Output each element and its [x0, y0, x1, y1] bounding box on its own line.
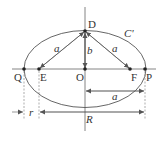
label-curve-C: C'	[124, 27, 134, 39]
label-dimension-r: r	[29, 106, 34, 118]
label-F: F	[131, 71, 137, 83]
label-dimension-R: R	[85, 113, 93, 125]
point-Q	[22, 67, 26, 71]
label-P: P	[146, 71, 152, 83]
label-DE-a: a	[54, 42, 60, 54]
point-D	[83, 29, 87, 33]
label-dimension-a: a	[112, 90, 118, 102]
label-O: O	[76, 71, 84, 83]
segment-DE-back	[40, 32, 84, 68]
label-Q: Q	[14, 71, 22, 83]
label-E: E	[40, 71, 47, 83]
label-DF-a: a	[112, 42, 118, 54]
ellipse-diagram: D Q E O F P C' a a b a r R	[0, 0, 164, 141]
label-DO-b: b	[87, 44, 93, 56]
label-D: D	[88, 18, 96, 30]
